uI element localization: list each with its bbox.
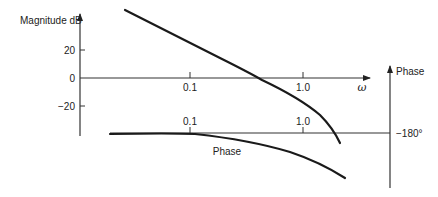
magnitude-axis-label: Magnitude dB: [20, 15, 82, 26]
minus-180-label: −180°: [396, 128, 423, 139]
tick-label-0: 0: [69, 73, 75, 84]
phase-axis-label: Phase: [396, 66, 425, 77]
omega-label: ω: [358, 81, 367, 94]
tick-label-minus20: −20: [58, 101, 75, 112]
freq-tick-1.0: 1.0: [296, 82, 310, 93]
tick-label-20: 20: [64, 45, 76, 56]
bode-plot: Magnitude dB 20 0 −20 0.1 1.0 ω Phase 0.…: [0, 0, 438, 197]
frequency-axis: [80, 72, 370, 78]
phase-curve-label: Phase: [213, 146, 242, 157]
phase-freq-tick-0.1: 0.1: [183, 116, 197, 127]
minus-180-line: [110, 127, 390, 133]
magnitude-axis: [80, 14, 85, 136]
phase-freq-tick-1.0: 1.0: [296, 116, 310, 127]
freq-tick-0.1: 0.1: [183, 82, 197, 93]
